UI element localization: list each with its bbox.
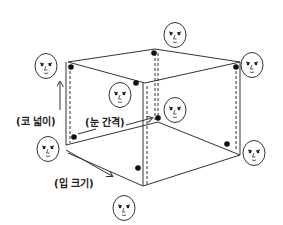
face-origin-icon: [37, 137, 59, 162]
nose-width-label: (코 넓이): [16, 113, 56, 128]
mouth-axis-arrow: [66, 150, 112, 176]
face-top-right-icon: [241, 53, 263, 78]
face-bottom-front-icon: [113, 196, 135, 221]
cube-diagram: (코 넓이) (눈 간격) (입 크기): [0, 0, 283, 225]
mouth-size-label: (입 크기): [54, 175, 94, 190]
face-center-back-icon: [164, 98, 186, 123]
face-bottom-right-icon: [243, 141, 265, 166]
face-front-center-icon: [109, 83, 131, 108]
face-top-back-icon: [164, 23, 186, 48]
eye-spacing-label: (눈 간격): [85, 114, 125, 129]
face-top-left-icon: [35, 54, 57, 79]
eyes-axis-arrow: [126, 118, 152, 125]
